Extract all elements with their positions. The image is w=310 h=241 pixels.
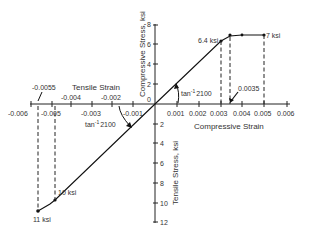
svg-text:tan-12100: tan-12100 — [181, 88, 212, 97]
x-tick-label: -0.001 — [123, 110, 143, 117]
annotation-0-0035: 0.0035 — [238, 85, 260, 92]
y-tick-label: 0 — [147, 96, 151, 103]
x-positive-axis-title: Compressive Strain — [194, 122, 264, 131]
x-tick-label: -0.002 — [101, 94, 121, 101]
y-tick-label: 2 — [147, 81, 151, 88]
y-tick-label: 8 — [147, 21, 151, 28]
annotation-6-4-ksi: 6.4 ksi — [198, 37, 219, 44]
y-tick-label: 12 — [160, 219, 168, 226]
x-tick-labels-positive: 0.001 0.002 0.003 0.004 0.005 0.006 — [167, 110, 295, 117]
diagram-canvas: 0.001 0.002 0.003 0.004 0.005 0.006 -0.0… — [0, 0, 310, 241]
x-tick-label: 0.004 — [233, 110, 251, 117]
y-tick-label: 4 — [147, 61, 151, 68]
y-tick-label: 6 — [147, 41, 151, 48]
x-tick-label: -0.004 — [61, 94, 81, 101]
y-tick-label: 6 — [160, 160, 164, 167]
x-tick-label: 0.005 — [254, 110, 272, 117]
annotation-11-ksi: 11 ksi — [33, 216, 51, 223]
svg-text:tan-12100: tan-12100 — [85, 119, 116, 128]
annotation-10-ksi: 10 ksi — [58, 189, 77, 196]
annotation-neg-0-0055: -0.0055 — [32, 84, 56, 91]
x-tick-label: 0.003 — [210, 110, 228, 117]
y-tick-label: 8 — [160, 180, 164, 187]
x-tick-label: 0.006 — [277, 110, 295, 117]
x-negative-axis-title: Tensile Strain — [72, 83, 120, 92]
y-tick-label: 10 — [160, 200, 168, 207]
y-tick-label: 4 — [160, 140, 164, 147]
x-tick-label: -0.006 — [8, 110, 28, 117]
y-positive-axis-title: Compressive Stress, ksi — [138, 11, 147, 97]
pointer-neg-0-0055 — [38, 92, 42, 101]
y-tick-label: 2 — [160, 121, 164, 128]
arrowhead-icon — [174, 83, 179, 89]
x-tick-label: 0.002 — [189, 110, 207, 117]
x-tick-label: -0.005 — [41, 110, 61, 117]
x-tick-label: 0.001 — [167, 110, 185, 117]
x-tick-labels-negative: -0.004 -0.002 -0.006 -0.005 -0.003 -0.00… — [8, 94, 143, 117]
x-tick-label: -0.003 — [81, 110, 101, 117]
stress-strain-diagram: 0.001 0.002 0.003 0.004 0.005 0.006 -0.0… — [0, 0, 310, 241]
y-negative-axis-title: Tensile Stress, ksi — [171, 141, 180, 205]
annotation-7-ksi: 7 ksi — [266, 32, 281, 39]
slope-annotation-compression: tan-12100 — [174, 83, 212, 103]
